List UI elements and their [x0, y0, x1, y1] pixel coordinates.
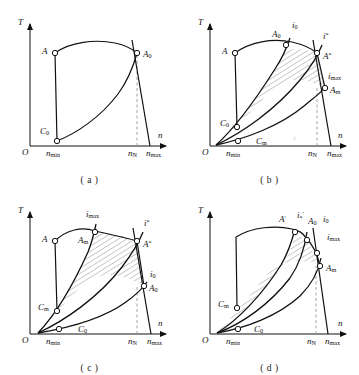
- point-label-A0: A0: [149, 284, 158, 293]
- point-label-C0: C0: [254, 325, 263, 334]
- i0-characteristic-curve: [38, 282, 147, 333]
- point-label-Am: Am: [330, 86, 340, 95]
- y-axis-label: T: [198, 206, 203, 215]
- xtick-nN: nN: [128, 337, 137, 346]
- xtick-nN: nN: [308, 149, 317, 158]
- ratio-label-imax: imax: [327, 233, 340, 242]
- ratio-label-i0: i0: [150, 270, 156, 279]
- marker-C0: [234, 124, 239, 129]
- marker-C0: [54, 138, 59, 143]
- xtick-nmax: nmax: [327, 149, 342, 158]
- lower-envelope-curve: [57, 53, 137, 141]
- marker-Aprime: [292, 229, 297, 234]
- xtick-nmin: nmin: [46, 337, 60, 346]
- hatched-region: [38, 233, 144, 332]
- marker-Am: [322, 85, 327, 90]
- y-axis-label: T: [18, 206, 23, 215]
- left-boundary-line: [55, 53, 57, 141]
- xtick-nN: nN: [307, 337, 316, 346]
- panel-c-caption: ( c ): [0, 363, 179, 373]
- origin-label: O: [22, 336, 29, 345]
- marker-Cm: [235, 138, 240, 143]
- point-label-Cm: Cm: [38, 303, 49, 312]
- xtick-nN: nN: [128, 149, 137, 158]
- x-axis-label: n: [158, 319, 163, 328]
- ratio-label-istarprime: i*': [297, 211, 304, 221]
- marker-C0: [56, 326, 61, 331]
- marker-imax-node: [314, 250, 319, 255]
- marker-A: [52, 238, 57, 243]
- origin-label: O: [202, 336, 209, 345]
- x-axis-label: n: [158, 131, 163, 140]
- marker-A0: [304, 237, 309, 242]
- panel-d: T n O A' i*' A0 i0 imax Am Cm C0 nmin nN…: [180, 188, 359, 375]
- panel-d-plot: [180, 188, 359, 375]
- panel-d-caption: ( d ): [180, 363, 359, 373]
- figure-grid: T n O A A0 C0 nmin nN nmax ( a ): [0, 0, 359, 375]
- marker-Astar: [134, 238, 139, 243]
- istarprime-characteristic-curve: [217, 229, 295, 333]
- point-label-C0: C0: [40, 127, 49, 136]
- point-label-A: A: [42, 235, 48, 244]
- left-boundary-line: [235, 53, 237, 127]
- point-label-Am: Am: [326, 264, 336, 273]
- marker-Am: [92, 229, 97, 234]
- max-speed-line: [313, 228, 328, 334]
- ratio-label-istar: i*: [144, 219, 150, 228]
- origin-label: O: [202, 148, 209, 157]
- point-label-A: A: [42, 47, 48, 56]
- marker-Cm: [234, 305, 239, 310]
- marker-A: [232, 50, 237, 55]
- panel-a-plot: [0, 0, 179, 187]
- ratio-label-i0: i0: [323, 215, 329, 224]
- panel-a: T n O A A0 C0 nmin nN nmax ( a ): [0, 0, 179, 187]
- xtick-nmax: nmax: [325, 337, 340, 346]
- point-label-Cm: Cm: [218, 300, 229, 309]
- xtick-nmin: nmin: [226, 337, 240, 346]
- xtick-nmax: nmax: [147, 337, 162, 346]
- y-axis-label: T: [18, 18, 23, 27]
- ratio-label-imax: imax: [328, 72, 341, 81]
- x-axis-label: n: [338, 131, 343, 140]
- marker-Astar: [314, 50, 319, 55]
- marker-A: [52, 50, 57, 55]
- point-label-A: A: [222, 47, 228, 56]
- point-label-C0: C0: [220, 119, 229, 128]
- faint-artifact: s: [293, 134, 296, 142]
- marker-Am: [317, 263, 322, 268]
- point-label-C0: C0: [78, 325, 87, 334]
- point-label-Am: Am: [78, 236, 88, 245]
- upper-envelope-curve: [55, 41, 137, 53]
- panel-c: T n O A imax Am i* A* i0 A0 Cm C0 nmin n…: [0, 188, 179, 375]
- panel-a-caption: ( a ): [0, 175, 179, 185]
- point-label-A0: A0: [272, 30, 281, 39]
- x-axis-label: n: [338, 319, 343, 328]
- panel-b-caption: ( b ): [180, 175, 359, 185]
- marker-A0: [283, 42, 288, 47]
- point-label-Astar: A*: [143, 240, 152, 249]
- marker-Cm: [54, 308, 59, 313]
- point-label-A0: A0: [143, 50, 152, 59]
- left-boundary-line: [55, 241, 57, 311]
- point-label-Astar: A*: [323, 52, 332, 61]
- marker-A0: [134, 50, 139, 55]
- y-axis-label: T: [198, 18, 203, 27]
- xtick-nmax: nmax: [146, 149, 161, 158]
- point-label-Aprime: A': [279, 215, 286, 224]
- panel-b: T n O A A0 i0 i* A* imax Am C0 Cm s nmin…: [180, 0, 359, 187]
- left-boundary-line: [236, 237, 237, 308]
- origin-label: O: [22, 148, 29, 157]
- point-label-Cm: Cm: [256, 137, 267, 146]
- marker-A0: [141, 283, 146, 288]
- ratio-label-imax: imax: [86, 210, 99, 219]
- xtick-nmin: nmin: [46, 149, 60, 158]
- ratio-label-i0: i0: [292, 21, 298, 30]
- point-label-A0: A0: [308, 217, 317, 226]
- marker-C0: [235, 326, 240, 331]
- xtick-nmin: nmin: [226, 149, 240, 158]
- ratio-label-istar: i*: [323, 32, 329, 41]
- hatched-region: [216, 49, 325, 144]
